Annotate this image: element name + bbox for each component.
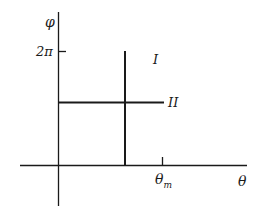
line-I-label: I [152, 52, 159, 67]
line-II-label: II [167, 95, 179, 110]
two-pi-label: 2π [35, 44, 53, 59]
theta-m-label: θm [155, 171, 172, 190]
theta-axis-label: θ [238, 173, 247, 189]
phi-axis-label: φ [45, 14, 55, 30]
phi-theta-diagram: φ 2π I II θm θ [0, 0, 258, 215]
theta-m-subscript: m [163, 180, 172, 190]
